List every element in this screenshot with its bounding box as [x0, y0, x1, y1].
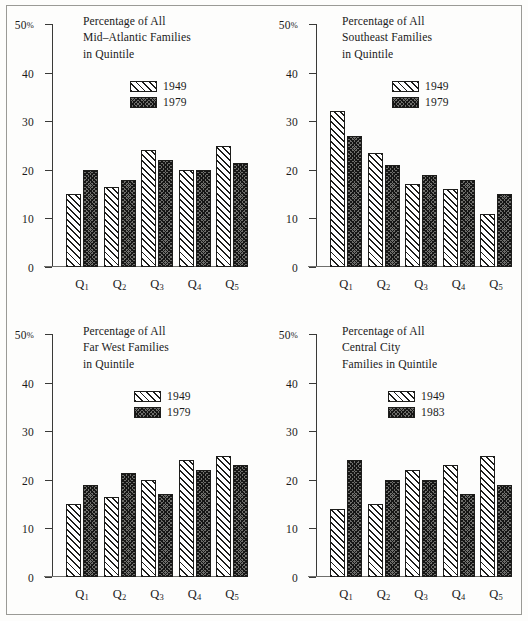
x-label-base: Q	[414, 587, 423, 601]
bar-group-Q4: Q4	[179, 334, 211, 577]
bar-southeast-Q3-1979	[422, 175, 437, 267]
x-label-base: Q	[150, 587, 159, 601]
x-axis-label-Q1: Q1	[66, 277, 98, 292]
y-tick-0: 0	[45, 577, 52, 578]
y-tick-label-10: 10	[22, 213, 34, 225]
x-axis-label-Q2: Q2	[368, 587, 400, 602]
x-label-subscript: 4	[197, 592, 201, 602]
y-tick-20: 20	[309, 170, 316, 171]
bar-southeast-Q2-1949	[368, 153, 383, 267]
y-tick-label-20: 20	[22, 475, 34, 487]
bar-far-west-Q2-1979	[121, 473, 136, 577]
y-tick-label-40: 40	[22, 68, 34, 80]
bar-southeast-Q2-1979	[385, 165, 400, 267]
y-tick-20: 20	[45, 480, 52, 481]
bar-southeast-Q4-1979	[460, 180, 475, 267]
bar-mid-atlantic-Q3-1949	[141, 150, 156, 267]
x-label-subscript: 3	[424, 282, 428, 292]
bar-southeast-Q5-1949	[480, 214, 495, 267]
bar-group-Q2: Q2	[104, 24, 136, 267]
bar-central-city-Q3-1949	[405, 470, 420, 577]
y-tick-10: 10	[309, 528, 316, 529]
bar-far-west-Q5-1979	[233, 465, 248, 577]
x-label-subscript: 3	[160, 282, 164, 292]
y-tick-30: 30	[45, 431, 52, 432]
x-label-subscript: 4	[461, 282, 465, 292]
bar-group-Q3: Q3	[405, 334, 437, 577]
bar-central-city-Q3-1983	[422, 480, 437, 577]
x-axis-label-Q1: Q1	[66, 587, 98, 602]
bar-central-city-Q1-1983	[347, 460, 362, 577]
y-tick-label-30: 30	[286, 116, 298, 128]
bar-central-city-Q5-1949	[480, 456, 495, 578]
x-label-subscript: 2	[122, 592, 126, 602]
y-tick-50: 50%	[309, 24, 316, 25]
y-tick-label-0: 0	[292, 572, 298, 584]
bar-groups: Q1Q2Q3Q4Q5	[316, 24, 506, 267]
bar-groups: Q1Q2Q3Q4Q5	[316, 334, 506, 577]
x-label-base: Q	[377, 587, 386, 601]
x-axis-label-Q2: Q2	[104, 277, 136, 292]
quintile-bar-chart-figure: Percentage of All Mid–Atlantic Families …	[0, 0, 528, 621]
bar-far-west-Q1-1949	[66, 504, 81, 577]
y-tick-0: 0	[309, 577, 316, 578]
y-tick-label-40: 40	[286, 378, 298, 390]
x-label-subscript: 2	[122, 282, 126, 292]
y-tick-label-30: 30	[22, 116, 34, 128]
x-label-subscript: 3	[424, 592, 428, 602]
y-tick-label-0: 0	[28, 572, 34, 584]
y-tick-40: 40	[45, 383, 52, 384]
y-tick-label-30: 30	[286, 426, 298, 438]
x-axis-label-Q4: Q4	[179, 277, 211, 292]
x-axis-label-Q5: Q5	[216, 277, 248, 292]
y-tick-10: 10	[45, 218, 52, 219]
bar-mid-atlantic-Q2-1949	[104, 187, 119, 267]
bar-group-Q5: Q5	[480, 24, 512, 267]
x-label-base: Q	[452, 587, 461, 601]
plot-area-mid-atlantic: 50%403020100Q1Q2Q3Q4Q5	[52, 24, 242, 267]
x-label-subscript: 2	[386, 282, 390, 292]
bar-far-west-Q2-1949	[104, 497, 119, 577]
bar-far-west-Q1-1979	[83, 485, 98, 577]
plot-area-central-city: 50%403020100Q1Q2Q3Q4Q5	[316, 334, 506, 577]
x-label-base: Q	[150, 277, 159, 291]
x-axis-label-Q5: Q5	[216, 587, 248, 602]
chart-grid: Percentage of All Mid–Atlantic Families …	[0, 0, 528, 621]
bar-far-west-Q4-1949	[179, 460, 194, 577]
bar-group-Q1: Q1	[66, 334, 98, 577]
bar-central-city-Q1-1949	[330, 509, 345, 577]
bar-mid-atlantic-Q4-1979	[196, 170, 211, 267]
x-axis-label-Q1: Q1	[330, 277, 362, 292]
x-axis-label-Q2: Q2	[104, 587, 136, 602]
x-label-base: Q	[75, 277, 84, 291]
bar-groups: Q1Q2Q3Q4Q5	[52, 24, 242, 267]
bar-group-Q2: Q2	[368, 24, 400, 267]
y-tick-label-40: 40	[286, 68, 298, 80]
x-label-subscript: 5	[235, 592, 239, 602]
bar-mid-atlantic-Q5-1949	[216, 146, 231, 268]
bar-group-Q5: Q5	[216, 24, 248, 267]
bar-mid-atlantic-Q3-1979	[158, 160, 173, 267]
bar-group-Q1: Q1	[330, 24, 362, 267]
x-label-base: Q	[339, 277, 348, 291]
y-tick-30: 30	[309, 431, 316, 432]
bar-group-Q3: Q3	[405, 24, 437, 267]
y-tick-50: 50%	[45, 334, 52, 335]
bar-group-Q5: Q5	[216, 334, 248, 577]
bar-central-city-Q4-1983	[460, 494, 475, 577]
y-tick-label-50: 50%	[15, 329, 34, 341]
x-label-base: Q	[188, 587, 197, 601]
chart-panel-mid-atlantic: Percentage of All Mid–Atlantic Families …	[0, 0, 264, 310]
y-axis-percent-sign: %	[291, 330, 298, 340]
chart-panel-far-west: Percentage of All Far West Families in Q…	[0, 310, 264, 621]
x-label-base: Q	[188, 277, 197, 291]
x-label-subscript: 4	[461, 592, 465, 602]
x-label-subscript: 1	[85, 592, 89, 602]
bar-southeast-Q1-1979	[347, 136, 362, 267]
y-tick-label-0: 0	[28, 262, 34, 274]
bar-group-Q2: Q2	[104, 334, 136, 577]
x-axis-label-Q4: Q4	[179, 587, 211, 602]
y-tick-label-50: 50%	[15, 19, 34, 31]
y-axis-percent-sign: %	[291, 20, 298, 30]
x-axis-label-Q3: Q3	[405, 277, 437, 292]
